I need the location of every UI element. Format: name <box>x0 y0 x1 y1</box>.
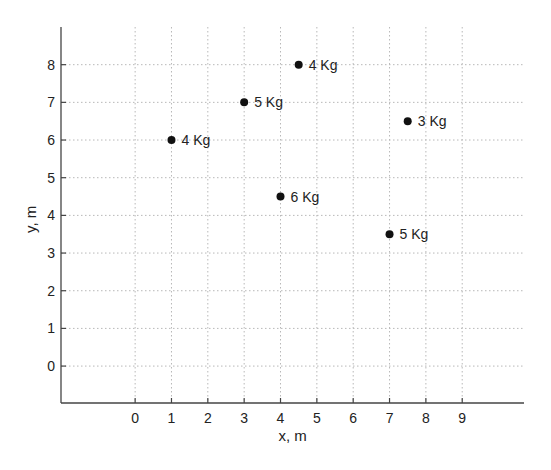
data-point <box>386 230 394 238</box>
x-tick-label: 7 <box>386 410 394 426</box>
x-tick-label: 0 <box>131 410 139 426</box>
y-tick-label: 1 <box>47 320 55 336</box>
x-tick-label: 1 <box>168 410 176 426</box>
x-tick-label: 2 <box>204 410 212 426</box>
scatter-chart: 0123456789012345678 4 Kg5 Kg4 Kg3 Kg6 Kg… <box>0 0 551 470</box>
x-tick-label: 5 <box>313 410 321 426</box>
y-tick-label: 5 <box>47 170 55 186</box>
x-tick-label: 6 <box>349 410 357 426</box>
x-tick-label: 9 <box>458 410 466 426</box>
y-tick-label: 3 <box>47 245 55 261</box>
y-tick-label: 8 <box>47 57 55 73</box>
grid <box>61 27 524 403</box>
data-point <box>167 136 175 144</box>
data-point-label: 4 Kg <box>309 57 338 73</box>
y-tick-label: 4 <box>47 207 55 223</box>
data-point <box>295 61 303 69</box>
data-point <box>277 193 285 201</box>
data-point-label: 5 Kg <box>254 94 283 110</box>
y-axis-title: y, m <box>22 206 39 233</box>
data-points: 4 Kg5 Kg4 Kg3 Kg6 Kg5 Kg <box>167 57 446 243</box>
y-tick-label: 2 <box>47 283 55 299</box>
x-tick-label: 4 <box>277 410 285 426</box>
y-tick-label: 6 <box>47 132 55 148</box>
data-point <box>404 117 412 125</box>
data-point <box>240 98 248 106</box>
x-tick-label: 3 <box>240 410 248 426</box>
x-tick-label: 8 <box>422 410 430 426</box>
data-point-label: 5 Kg <box>400 226 429 242</box>
y-tick-label: 7 <box>47 94 55 110</box>
data-point-label: 3 Kg <box>418 113 447 129</box>
data-point-label: 6 Kg <box>291 189 320 205</box>
data-point-label: 4 Kg <box>181 132 210 148</box>
y-tick-label: 0 <box>47 358 55 374</box>
x-axis-title: x, m <box>279 427 307 444</box>
